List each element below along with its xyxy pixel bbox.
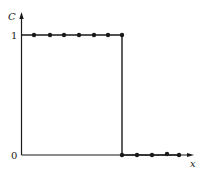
data-point — [177, 153, 181, 157]
data-point — [150, 153, 154, 157]
step-line — [22, 35, 180, 155]
step-chart: C x 1 0 — [0, 0, 205, 172]
y-axis-arrow-icon — [19, 12, 23, 19]
x-axis-label: x — [190, 158, 196, 169]
data-point — [106, 33, 110, 37]
data-point — [92, 33, 96, 37]
y-axis-label: C — [8, 11, 16, 22]
data-point — [77, 33, 81, 37]
data-point — [135, 153, 139, 157]
data-point — [48, 33, 52, 37]
data-point — [120, 33, 124, 37]
x-axis-arrow-icon — [187, 153, 194, 157]
data-point — [120, 153, 124, 157]
data-point — [32, 33, 36, 37]
data-point — [62, 33, 66, 37]
y-tick-1: 1 — [11, 30, 17, 41]
data-point — [165, 152, 169, 156]
y-tick-0: 0 — [11, 150, 17, 161]
